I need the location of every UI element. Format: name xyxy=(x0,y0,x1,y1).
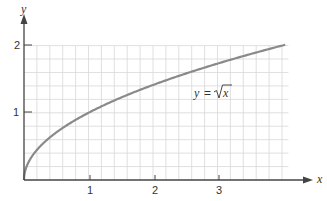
curve-annotation: y = x xyxy=(193,85,232,100)
y-tick-label-1: 1 xyxy=(13,106,19,118)
x-tick-label-2: 2 xyxy=(152,184,158,196)
sqrt-chart: 1 2 3 1 2 y x y = x xyxy=(0,0,327,201)
annotation-x: x xyxy=(222,86,229,100)
y-axis-label: y xyxy=(20,2,27,16)
sqrt-curve xyxy=(24,45,285,180)
x-tick-label-3: 3 xyxy=(216,184,222,196)
x-axis-label: x xyxy=(316,172,323,186)
x-axis-arrow-icon xyxy=(303,177,313,184)
y-tick-label-2: 2 xyxy=(14,39,20,51)
x-tick-label-1: 1 xyxy=(87,184,93,196)
annotation-equals: = xyxy=(204,86,211,100)
annotation-y: y xyxy=(193,86,200,100)
grid xyxy=(24,46,288,180)
